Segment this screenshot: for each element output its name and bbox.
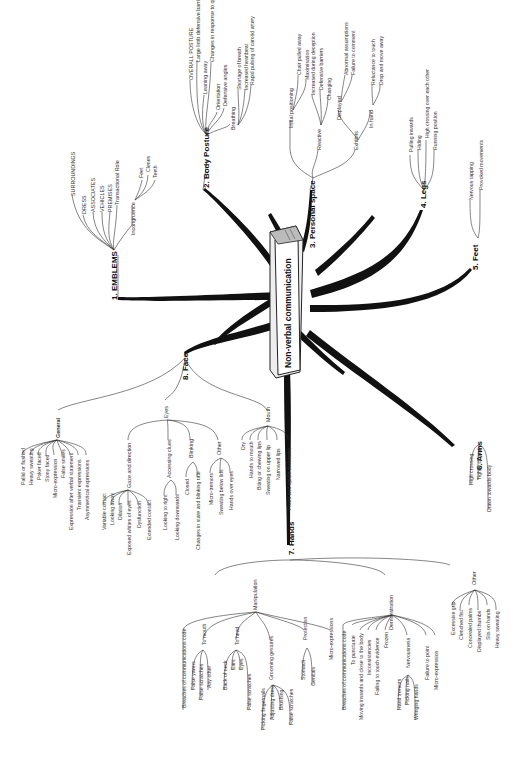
node-label: 3. Personal space xyxy=(308,180,317,248)
node-label: ASSOCIATES xyxy=(90,178,96,212)
node-label: Sweating below lids xyxy=(218,469,224,515)
node-label: Closed xyxy=(184,479,190,495)
central-node: Non-verbal communication xyxy=(270,226,303,378)
node-label: False yawns xyxy=(190,661,196,690)
node-label: To punctuate xyxy=(350,635,356,665)
node-label: Gaze and direction xyxy=(126,443,132,488)
node-label: Eyes xyxy=(238,658,244,670)
node-label: Other xyxy=(471,571,477,585)
node-label: Heavy sweating xyxy=(28,448,34,485)
node-label: Pallid or flushed xyxy=(20,448,26,485)
node-label: False smiles xyxy=(60,449,66,478)
node-label: Drop and move away xyxy=(378,36,384,85)
node-label: Defensive angles xyxy=(222,64,228,106)
node-label: Stomach xyxy=(300,659,306,680)
node-label: Asymmetrical expressions xyxy=(84,459,90,520)
node-label: Orientation xyxy=(215,84,221,110)
node-label: Dilation xyxy=(117,503,123,520)
node-label: Chair pulled away xyxy=(296,33,302,75)
mind-map: Non-verbal communication 1. EMBLEMS SURR… xyxy=(0,0,515,761)
branch-face: 8. Face General Pallid or flushed Heavy … xyxy=(20,352,292,555)
node-label: Picking fingernails xyxy=(260,688,266,730)
node-label: False scratches xyxy=(288,688,294,725)
node-label: Feet xyxy=(138,167,144,178)
central-title: Non-verbal communication xyxy=(283,258,293,368)
node-label: Breaches of communications code xyxy=(341,631,347,710)
node-label: Running position xyxy=(432,111,438,150)
node-label: False scratches xyxy=(198,663,204,700)
node-label: Micro-expression xyxy=(433,650,439,690)
node-label: Looking downwards xyxy=(174,494,180,540)
node-label: Tightly closed xyxy=(476,448,482,480)
node-label: Picking nails xyxy=(404,676,410,705)
node-label: Exhibits xyxy=(353,131,359,150)
node-label: Biting or chewing lips xyxy=(256,441,262,490)
node-label: DRESS xyxy=(81,195,87,214)
node-label: Frozen xyxy=(383,632,389,648)
node-label: Grooming gestures xyxy=(268,635,274,680)
node-label: Variable contact xyxy=(101,493,107,530)
node-label: VEHICLES xyxy=(99,185,105,212)
node-label: Increased during deception xyxy=(310,32,316,95)
node-label: Genitals xyxy=(310,667,316,686)
node-label: Looking away xyxy=(109,493,115,525)
node-label: Breathing xyxy=(230,107,236,130)
node-label: To head xyxy=(234,626,240,645)
node-label: Nervous tapping xyxy=(468,162,474,200)
node-label: Pulling inwards xyxy=(408,117,414,152)
node-label: Reactive xyxy=(316,129,322,150)
node-label: Mouth xyxy=(265,407,271,422)
node-label: To mouth xyxy=(201,624,207,645)
node-label: Stony faced xyxy=(44,454,50,482)
node-label: Manipulation xyxy=(252,579,258,610)
node-label: In hand xyxy=(368,110,374,128)
node-label: Nervousness xyxy=(405,637,411,668)
node-label: PREMISES xyxy=(107,184,113,212)
node-label: Any other xyxy=(206,666,212,688)
node-label: Exposed whites of eyes xyxy=(126,500,132,555)
node-label: Micro-tremors xyxy=(208,473,214,505)
node-label: Moving inwards and close to the body xyxy=(358,633,364,720)
node-label: Excessive grip xyxy=(450,601,456,635)
node-label: Failure to comment xyxy=(350,30,356,75)
node-label: Reluctance to touch xyxy=(370,39,376,85)
node-label: Narrowed lips xyxy=(275,448,281,480)
node-label: Eyes xyxy=(163,406,169,418)
node-label: High crossing xyxy=(468,453,474,485)
node-label: Back of neck xyxy=(222,660,228,690)
node-label: Defensive barriers xyxy=(318,48,324,90)
node-label: Sweating on upper lip xyxy=(265,445,271,495)
branch-label: 1. EMBLEMS xyxy=(110,250,119,300)
node-label: Large limb defensive barriers xyxy=(195,0,201,62)
node-label: Hand tremors xyxy=(396,678,402,710)
node-label: Other xyxy=(216,441,222,455)
node-label: Incongruence xyxy=(130,202,136,235)
node-label: Hiding xyxy=(416,135,422,150)
node-label: Dry xyxy=(240,442,246,450)
node-label: Blinking xyxy=(188,439,194,458)
node-label: Protection xyxy=(302,617,308,640)
node-label: Shortage of breath xyxy=(236,47,242,90)
node-label: Heavy sweating xyxy=(494,611,500,648)
branch-legs: 4. Legs Pulling inwards Hiding High cros… xyxy=(408,69,438,208)
node-label: 2. Body Posture xyxy=(202,127,211,188)
node-label: 4. Legs xyxy=(419,180,428,208)
node-label: SURROUNDINGS xyxy=(70,151,76,196)
branch-hands: 7. Hands Manipulation Breaches of commun… xyxy=(181,521,500,730)
node-label: Adjusting dress xyxy=(269,684,275,720)
node-label: 7. Hands xyxy=(287,521,296,555)
node-label: Failing to touch evidence xyxy=(374,637,380,695)
node-label: Transient expressions xyxy=(76,459,82,510)
node-label: General xyxy=(55,417,61,438)
node-label: Displayed thumbs xyxy=(476,610,482,652)
node-label: Failure to point xyxy=(424,645,430,680)
node-label: Inconsistencies xyxy=(366,639,372,675)
node-label: Extended contact xyxy=(146,499,152,540)
branch-personal-space: 3. Personal space Initial positioning Re… xyxy=(288,22,384,248)
node-label: Provoked movements xyxy=(478,139,484,190)
node-label: Dysfunction xyxy=(136,501,142,528)
node-label: Poker faced xyxy=(36,452,42,480)
node-label: Transactional Role xyxy=(114,160,120,205)
node-label: Clenes xyxy=(145,155,151,172)
node-label: Looking to right xyxy=(162,494,168,530)
